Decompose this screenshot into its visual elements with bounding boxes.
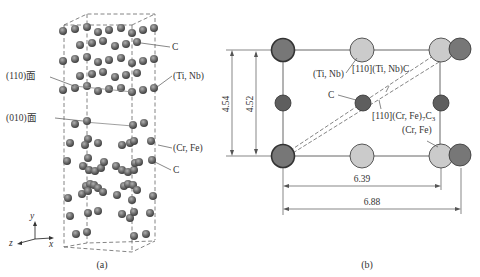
dim-width-688: 6.88 [364,197,381,207]
atom-crfe-bottom-right [449,144,471,166]
label-direction-crfe7c3: [110](Cr, Fe)7C3 [372,111,436,123]
atoms-b [272,38,472,168]
atom-tinb-top-mid [350,38,374,62]
panel-a: C (110)面 (Ti, Nb) (010)面 (Cr, Fe) C y x … [6,14,204,271]
caption-b: (b) [361,259,373,271]
dim-width-639: 6.39 [354,174,371,184]
dim-height-454: 4.54 [221,95,231,112]
panel-b: (Ti, Nb) [110](Ti, Nb)C C [110](Cr, Fe)7… [221,38,471,271]
label-cr-fe-b: (Cr, Fe) [402,125,432,136]
atom-crfe-top-left [272,39,295,62]
label-cr-fe: (Cr, Fe) [173,143,203,154]
label-c-b: C [328,90,334,100]
axis-y-label: y [29,211,35,221]
unit-cell-box [64,14,155,252]
crystal-structure-figure: C (110)面 (Ti, Nb) (010)面 (Cr, Fe) C y x … [0,0,480,277]
atoms-upper-layers [59,23,158,96]
label-c-bottom: C [173,165,179,175]
atom-crfe-bottom-left [272,145,295,168]
plane-010-line [84,122,133,126]
atom-crfe-top-right [449,38,471,60]
label-plane-110: (110)面 [6,71,36,82]
atoms-lower-layers [63,117,157,240]
label-ti-nb: (Ti, Nb) [173,71,204,82]
caption-a: (a) [96,259,107,271]
label-ti-nb-b: (Ti, Nb) [313,69,344,80]
label-plane-010: (010)面 [6,113,37,124]
dim-height-452: 4.52 [245,95,255,112]
label-direction-tinbc: [110](Ti, Nb)C [352,64,409,75]
axis-x-label: x [48,239,54,249]
atom-c-mid-right [433,95,449,111]
atom-c-mid-left [275,95,291,111]
atom-tinb-bottom-mid [350,144,374,168]
axis-z-label: z [8,238,13,248]
atom-c-mid-center [355,95,371,111]
label-c-top: C [172,42,178,52]
